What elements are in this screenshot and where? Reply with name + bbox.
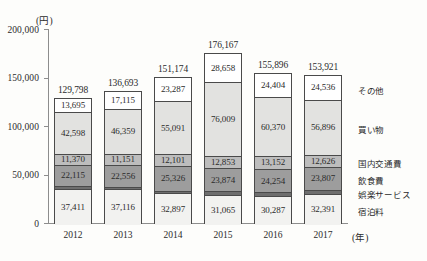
bar-segment[interactable]: 11,370 (55, 154, 91, 165)
bar-total-label: 155,896 (258, 60, 288, 70)
stacked-bar[interactable]: 28,65876,00912,85323,87431,065 (204, 53, 242, 224)
bar-segment[interactable]: 37,411 (55, 189, 91, 225)
bar-segment[interactable]: 32,391 (305, 194, 341, 225)
stacked-bar[interactable]: 24,40460,37013,15224,25430,287 (254, 73, 292, 224)
bar-segment[interactable]: 30,287 (255, 196, 291, 225)
chart-legend: その他買い物娯楽サービス国内交通費飲食費宿泊料 (358, 30, 427, 224)
bar-group: 24,53656,89612,62623,80732,391153,921201… (304, 30, 342, 224)
x-axis-category-label: 2016 (264, 230, 283, 240)
x-axis-unit-label: (年) (352, 230, 368, 244)
bar-segment[interactable]: 22,115 (55, 165, 91, 186)
bar-series-container: 13,69542,59811,37022,11537,411129,798201… (48, 30, 348, 224)
bar-group: 13,69542,59811,37022,11537,411129,798201… (54, 30, 92, 224)
segment-value-label: 30,287 (261, 206, 285, 215)
segment-value-label: 17,115 (111, 96, 135, 105)
bar-segment[interactable]: 17,115 (105, 92, 141, 109)
bar-segment[interactable]: 37,116 (105, 189, 141, 225)
bar-segment[interactable]: 28,658 (205, 54, 241, 82)
segment-value-label: 13,152 (261, 158, 285, 167)
bar-segment[interactable]: 32,897 (155, 193, 191, 225)
bar-total-label: 151,174 (158, 64, 188, 74)
y-tick-label: 200,000 (7, 25, 39, 35)
segment-value-label: 13,695 (61, 101, 85, 110)
segment-value-label: 42,598 (61, 129, 85, 138)
y-tick-label: 0 (34, 219, 39, 229)
segment-value-label: 25,326 (161, 174, 185, 183)
y-tick-label: 150,000 (7, 73, 39, 83)
bar-group: 23,28755,09112,10125,32632,897151,174201… (154, 30, 192, 224)
bar-segment[interactable]: 31,065 (205, 195, 241, 225)
bar-total-label: 153,921 (308, 62, 338, 72)
x-axis-category-label: 2012 (64, 230, 83, 240)
bar-segment[interactable]: 24,404 (255, 74, 291, 98)
bar-total-label: 129,798 (58, 85, 88, 95)
segment-value-label: 56,896 (311, 123, 335, 132)
segment-value-label: 22,115 (61, 171, 85, 180)
bar-group: 17,11546,35911,15122,55637,116136,693201… (104, 30, 142, 224)
bar-total-label: 176,167 (208, 40, 238, 50)
segment-value-label: 60,370 (261, 123, 285, 132)
segment-value-label: 12,626 (311, 157, 335, 166)
segment-value-label: 12,853 (211, 158, 235, 167)
segment-value-label: 37,116 (111, 203, 135, 212)
segment-value-label: 28,658 (211, 64, 235, 73)
segment-value-label: 24,536 (311, 83, 335, 92)
bar-group: 24,40460,37013,15224,25430,287155,896201… (254, 30, 292, 224)
bar-segment[interactable]: 23,287 (155, 78, 191, 101)
segment-value-label: 23,287 (161, 85, 185, 94)
segment-value-label: 23,874 (211, 176, 235, 185)
stacked-bar[interactable]: 17,11546,35911,15122,55637,116 (104, 91, 142, 224)
bar-segment[interactable]: 12,853 (205, 156, 241, 168)
bar-group: 28,65876,00912,85323,87431,065176,167201… (204, 30, 242, 224)
bar-segment[interactable]: 23,874 (205, 168, 241, 191)
segment-value-label: 22,556 (111, 172, 135, 181)
bar-segment[interactable]: 22,556 (105, 165, 141, 187)
bar-segment[interactable]: 13,695 (55, 99, 91, 112)
segment-value-label: 46,359 (111, 127, 135, 136)
x-axis-category-label: 2013 (114, 230, 133, 240)
bar-total-label: 136,693 (108, 78, 138, 88)
segment-value-label: 12,101 (161, 156, 185, 165)
y-tick-label: 100,000 (7, 122, 39, 132)
bar-segment[interactable]: 42,598 (55, 112, 91, 153)
bar-segment[interactable]: 55,091 (155, 101, 191, 154)
bar-segment[interactable]: 46,359 (105, 109, 141, 154)
bar-segment[interactable]: 76,009 (205, 82, 241, 156)
stacked-bar[interactable]: 23,28755,09112,10125,32632,897 (154, 77, 192, 224)
stacked-bar-chart: (円) 050,000100,000150,000200,000 13,6954… (0, 0, 427, 261)
bar-segment[interactable]: 56,896 (305, 100, 341, 155)
segment-value-label: 37,411 (61, 203, 85, 212)
plot-area: 050,000100,000150,000200,000 13,69542,59… (48, 30, 348, 224)
segment-value-label: 32,897 (161, 205, 185, 214)
segment-value-label: 32,391 (311, 205, 335, 214)
bar-segment[interactable]: 13,152 (255, 156, 291, 169)
x-axis-category-label: 2014 (164, 230, 183, 240)
segment-value-label: 76,009 (211, 115, 235, 124)
bar-segment[interactable]: 25,326 (155, 166, 191, 191)
stacked-bar[interactable]: 24,53656,89612,62623,80732,391 (304, 75, 342, 224)
segment-value-label: 24,254 (261, 177, 285, 186)
segment-value-label: 31,065 (211, 206, 235, 215)
segment-value-label: 11,151 (111, 155, 135, 164)
x-axis-category-label: 2015 (214, 230, 233, 240)
segment-value-label: 55,091 (161, 124, 185, 133)
bar-segment[interactable]: 60,370 (255, 97, 291, 156)
bar-segment[interactable]: 11,151 (105, 154, 141, 165)
x-axis-category-label: 2017 (314, 230, 333, 240)
segment-value-label: 23,807 (311, 174, 335, 183)
bar-segment[interactable]: 23,807 (305, 167, 341, 190)
segment-value-label: 24,404 (261, 81, 285, 90)
bar-segment[interactable]: 24,536 (305, 76, 341, 100)
bar-segment[interactable]: 24,254 (255, 169, 291, 193)
bar-segment[interactable]: 12,626 (305, 155, 341, 167)
y-tick-label: 50,000 (12, 170, 39, 180)
stacked-bar[interactable]: 13,69542,59811,37022,11537,411 (54, 98, 92, 224)
segment-value-label: 11,370 (61, 155, 85, 164)
bar-segment[interactable]: 12,101 (155, 154, 191, 166)
